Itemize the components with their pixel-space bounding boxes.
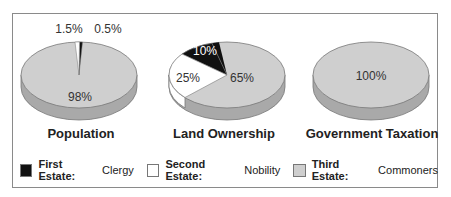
clergy-swatch [20,164,32,177]
land-ownership-title: Land Ownership [154,126,294,141]
nobility-label: 25% [176,71,200,85]
legend-item-commoners: Third Estate:Commoners [293,158,438,182]
population-pie-chart: 1.5% 0.5% 98% [12,0,152,140]
government-taxation-pie-chart: 100% [300,0,440,140]
commoners-label: 100% [356,69,387,83]
clergy-label: 10% [193,44,217,58]
government-taxation-title: Government Taxation [302,126,442,141]
clergy-label: 0.5% [94,22,122,36]
land-ownership-pie-chart: 10% 25% 65% [150,0,290,140]
legend-item-clergy: First Estate:Clergy [20,158,134,182]
commoners-swatch [293,164,305,177]
nobility-swatch [147,164,160,177]
legend-item-nobility: Second Estate:Nobility [147,158,280,182]
nobility-label: 1.5% [55,22,83,36]
legend: First Estate:Clergy Second Estate:Nobili… [20,158,451,182]
commoners-label: 98% [68,90,92,104]
population-title: Population [11,126,151,141]
commoners-label: 65% [230,71,254,85]
